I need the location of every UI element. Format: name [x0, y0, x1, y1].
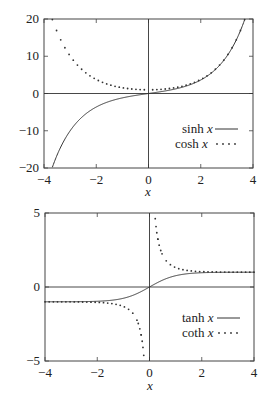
x-tick-label: −2 [89, 172, 103, 187]
legend-label-coth: coth x [182, 325, 214, 340]
x-tick-label: −2 [90, 365, 104, 380]
sinh-cosh-plot: −4−2024−20−1001020 sinh x cosh x x [19, 11, 257, 199]
legend-line-dotted [218, 332, 238, 334]
y-tick-label: 0 [34, 279, 41, 294]
legend: sinh x cosh x [175, 121, 238, 151]
legend-label-tanh: tanh x [182, 310, 214, 325]
y-tick-label: −10 [19, 123, 39, 138]
y-tick-label: −5 [26, 353, 40, 368]
y-tick-label: −20 [19, 160, 39, 175]
y-tick-label: 5 [34, 205, 41, 220]
legend-label-sinh: sinh x [182, 121, 213, 136]
y-tick-label: 20 [26, 11, 39, 26]
legend-label-cosh: cosh x [175, 136, 208, 151]
x-axis-label: x [146, 378, 153, 393]
y-tick-label: 0 [33, 86, 40, 101]
tanh-coth-plot: −4−2024−505 tanh x coth x x [26, 205, 258, 393]
x-tick-label: 2 [199, 365, 206, 380]
x-tick-label: −4 [38, 365, 52, 380]
x-axis-label: x [144, 184, 151, 199]
x-tick-label: 2 [198, 172, 205, 187]
x-tick-label: 4 [251, 365, 258, 380]
hyperbolic-functions-figure: −4−2024−20−1001020 sinh x cosh x x −4−20… [0, 0, 271, 413]
x-tick-label: 4 [250, 172, 257, 187]
legend: tanh x coth x [182, 310, 240, 340]
ticks: −4−2024−505 [26, 205, 258, 380]
y-tick-label: 10 [26, 48, 39, 63]
x-tick-label: −4 [37, 172, 51, 187]
legend-line-dotted [216, 143, 236, 145]
